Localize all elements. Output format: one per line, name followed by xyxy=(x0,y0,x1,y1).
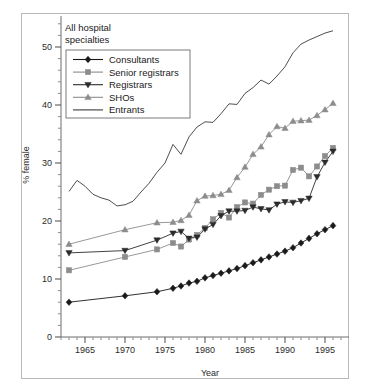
data-point-diamond xyxy=(186,280,192,287)
data-point-diamond xyxy=(258,257,264,264)
data-point-diamond xyxy=(306,235,312,242)
data-point-square xyxy=(274,184,279,189)
data-point-triangle-up xyxy=(194,198,200,204)
data-point-diamond xyxy=(242,262,248,269)
data-point-diamond xyxy=(250,259,256,266)
data-point-square xyxy=(170,240,175,245)
data-point-triangle-down xyxy=(210,222,216,228)
data-point-diamond xyxy=(202,275,208,282)
data-point-triangle-up xyxy=(178,217,184,223)
y-tick-label: 40 xyxy=(42,100,52,110)
data-point-square xyxy=(85,70,90,75)
data-point-diamond xyxy=(330,222,336,229)
data-point-square xyxy=(258,192,263,197)
data-point-triangle-up xyxy=(322,106,328,112)
data-point-square xyxy=(282,183,287,188)
data-point-triangle-up xyxy=(242,164,248,170)
data-point-square xyxy=(306,174,311,179)
data-point-diamond xyxy=(226,268,232,275)
data-point-diamond xyxy=(314,230,320,237)
data-point-triangle-up xyxy=(274,123,280,128)
data-point-diamond xyxy=(266,254,272,261)
data-point-diamond xyxy=(218,270,224,277)
legend-label-4[interactable]: Entrants xyxy=(109,104,145,115)
y-tick-label: 50 xyxy=(42,42,52,52)
series-line-consultants xyxy=(69,226,333,303)
y-tick-label: 30 xyxy=(42,158,52,168)
data-point-diamond xyxy=(170,285,176,292)
y-tick-label: 10 xyxy=(42,274,52,284)
data-point-triangle-up xyxy=(314,112,320,118)
legend-label-3[interactable]: SHOs xyxy=(109,92,135,103)
data-point-diamond xyxy=(210,272,216,279)
series-line-senior-registrars xyxy=(69,148,333,270)
data-point-diamond xyxy=(298,240,304,247)
data-point-diamond xyxy=(194,278,200,285)
data-point-square xyxy=(154,247,159,252)
data-point-triangle-up xyxy=(330,100,336,106)
x-tick-label: 1995 xyxy=(315,345,335,355)
data-point-diamond xyxy=(290,244,296,251)
data-point-diamond xyxy=(178,283,184,290)
chart-figure: All hospital specialties % female Year 0… xyxy=(0,0,370,392)
x-tick-label: 1965 xyxy=(75,345,95,355)
data-point-square xyxy=(210,217,215,222)
data-point-diamond xyxy=(282,248,288,255)
data-point-triangle-down xyxy=(290,200,296,206)
data-point-diamond xyxy=(122,293,128,300)
data-point-square xyxy=(226,215,231,220)
x-tick-label: 1970 xyxy=(115,345,135,355)
x-tick-label: 1980 xyxy=(195,345,215,355)
y-tick-label: 20 xyxy=(42,216,52,226)
data-point-triangle-up xyxy=(226,187,232,193)
legend-label-1[interactable]: Senior registrars xyxy=(109,67,179,78)
data-point-triangle-up xyxy=(306,117,312,123)
data-point-triangle-up xyxy=(218,191,224,197)
x-tick-label: 1985 xyxy=(235,345,255,355)
x-tick-label: 1990 xyxy=(275,345,295,355)
data-point-triangle-up xyxy=(186,212,192,218)
x-tick-label: 1975 xyxy=(155,345,175,355)
data-point-triangle-down xyxy=(314,175,320,181)
data-point-diamond xyxy=(322,226,328,233)
data-point-square xyxy=(266,187,271,192)
data-point-triangle-down xyxy=(66,251,72,257)
chart-plot: 010203040501965197019751980198519901995C… xyxy=(0,0,370,392)
data-point-triangle-down xyxy=(322,160,328,166)
data-point-square xyxy=(298,165,303,170)
data-point-triangle-down xyxy=(266,208,272,214)
data-point-diamond xyxy=(66,299,72,306)
legend-label-0[interactable]: Consultants xyxy=(109,54,159,65)
legend-label-2[interactable]: Registrars xyxy=(109,79,153,90)
data-point-square xyxy=(66,268,71,273)
data-point-triangle-down xyxy=(170,231,176,237)
data-point-square xyxy=(122,254,127,259)
y-tick-label: 0 xyxy=(47,332,52,342)
data-point-square xyxy=(290,167,295,172)
data-point-square xyxy=(322,153,327,158)
data-point-diamond xyxy=(234,265,240,272)
data-point-square xyxy=(314,164,319,169)
data-point-diamond xyxy=(154,288,160,295)
data-point-triangle-down xyxy=(274,202,280,208)
data-point-diamond xyxy=(274,251,280,258)
data-point-square xyxy=(242,200,247,205)
data-point-square xyxy=(178,244,183,249)
data-point-triangle-up xyxy=(258,144,264,150)
